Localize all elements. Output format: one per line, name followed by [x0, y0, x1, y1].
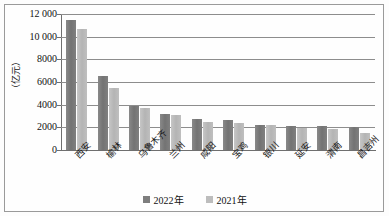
y-tick-label: 2000: [1, 122, 57, 132]
legend-label: 2022年: [154, 192, 184, 207]
legend-swatch-icon: [143, 196, 150, 203]
legend-label: 2021年: [217, 192, 247, 207]
bar: [223, 120, 233, 150]
bar-group: [317, 14, 338, 150]
plot-area: [61, 14, 375, 150]
y-tick-label: 6000: [1, 77, 57, 87]
bar: [66, 20, 76, 150]
bar-group: [192, 14, 213, 150]
y-tick-mark: [57, 150, 61, 151]
chart-legend: 2022年2021年: [0, 192, 389, 207]
bar: [317, 126, 327, 150]
bar-group: [66, 14, 87, 150]
y-tick-label: 0: [1, 145, 57, 155]
bar: [192, 119, 202, 150]
bar-group: [286, 14, 307, 150]
bar-group: [223, 14, 244, 150]
y-tick-label: 4000: [1, 100, 57, 110]
y-tick-label: 8000: [1, 54, 57, 64]
bar: [129, 106, 139, 150]
legend-item[interactable]: 2022年: [143, 192, 184, 207]
legend-swatch-icon: [206, 196, 213, 203]
bar: [77, 29, 87, 150]
bar-chart: （亿元） 0200040006000800010 00012 000 西安榆林乌…: [0, 0, 389, 216]
bar: [349, 127, 359, 150]
bar: [98, 76, 108, 150]
bar-group: [98, 14, 119, 150]
bar: [255, 125, 265, 150]
legend-item[interactable]: 2021年: [206, 192, 247, 207]
bar-group: [255, 14, 276, 150]
y-tick-label: 10 000: [1, 32, 57, 42]
y-tick-label: 12 000: [1, 9, 57, 19]
bar: [286, 126, 296, 150]
bar-group: [129, 14, 150, 150]
bar-group: [349, 14, 370, 150]
